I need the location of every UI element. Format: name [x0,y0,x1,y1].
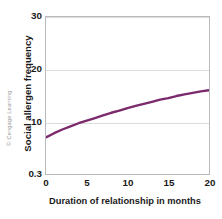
x-tick-label: 5 [72,178,102,188]
y-tick-label: 20 [4,64,42,74]
line-series-svg [46,17,209,174]
x-axis-title: Duration of relationship in months [30,196,220,206]
line-series-path [46,90,209,137]
y-axis-title: Social allergen frequency [22,19,33,169]
y-tick-label: 30 [4,11,42,21]
chart-figure: © Cengage Learning Social allergen frequ… [0,0,222,219]
x-tick-label: 15 [154,178,184,188]
x-tick-label: 10 [113,178,143,188]
y-tick-label: 10 [4,117,42,127]
plot-area [45,16,210,175]
x-tick-label: 20 [195,178,222,188]
x-tick-label: 0 [31,178,61,188]
